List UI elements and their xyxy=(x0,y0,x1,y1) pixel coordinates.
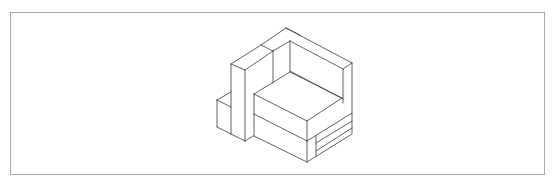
left-post xyxy=(231,64,253,141)
side-step-block xyxy=(217,92,231,134)
seat-cushion xyxy=(254,72,342,141)
sofa-isometric-drawing xyxy=(0,0,554,188)
back-rail xyxy=(231,28,352,133)
drawer[interactable] xyxy=(316,121,352,156)
